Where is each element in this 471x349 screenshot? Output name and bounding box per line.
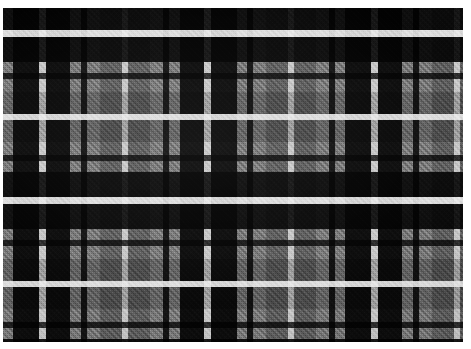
weft-stripe bbox=[3, 114, 463, 120]
weft-stripe bbox=[3, 8, 463, 30]
warp-stripe bbox=[39, 8, 46, 342]
warp-stripe bbox=[13, 8, 39, 342]
warp-stripe bbox=[419, 8, 432, 342]
warp-stripe bbox=[316, 8, 329, 342]
warp-stripe bbox=[345, 8, 371, 342]
warp-stripe bbox=[70, 8, 81, 342]
weft-stripe bbox=[3, 328, 463, 339]
weft-stripe bbox=[3, 240, 463, 246]
warp-stripe bbox=[163, 8, 169, 342]
weft-stripe bbox=[3, 62, 463, 73]
warp-stripe bbox=[335, 8, 345, 342]
warp-stripe bbox=[402, 8, 413, 342]
weft-stripe bbox=[3, 259, 463, 281]
weft-stripe bbox=[3, 197, 463, 204]
weft-stripe bbox=[3, 339, 463, 342]
weft-stripe bbox=[3, 73, 463, 79]
warp-stripe bbox=[294, 8, 316, 342]
thread-grain-texture bbox=[3, 8, 463, 342]
weft-stripe bbox=[3, 172, 463, 197]
warp-stripe bbox=[169, 8, 180, 342]
fabric-swatch bbox=[3, 8, 463, 342]
weft-stripe bbox=[3, 229, 463, 240]
weft-stripe bbox=[3, 142, 463, 155]
weft-stripe bbox=[3, 30, 463, 37]
warp-stripe bbox=[329, 8, 335, 342]
warp-stripe bbox=[288, 8, 294, 342]
warp-stripe bbox=[128, 8, 150, 342]
warp-stripe bbox=[150, 8, 163, 342]
warp-stripe bbox=[204, 8, 211, 342]
weft-stripe bbox=[3, 246, 463, 259]
warp-stripe bbox=[432, 8, 454, 342]
warp-stripe bbox=[454, 8, 460, 342]
warp-stripe bbox=[3, 8, 13, 342]
warp-stripe bbox=[266, 8, 288, 342]
warp-stripe bbox=[122, 8, 128, 342]
warp-stripe bbox=[81, 8, 87, 342]
warp-stripe bbox=[211, 8, 237, 342]
weft-stripe bbox=[3, 79, 463, 92]
warp-stripe bbox=[247, 8, 253, 342]
warp-stripe bbox=[180, 8, 204, 342]
warp-stripe bbox=[371, 8, 378, 342]
warp-stripe bbox=[378, 8, 402, 342]
warp-stripe bbox=[460, 8, 463, 342]
twill-weave-texture-alt bbox=[3, 8, 463, 342]
weft-stripe bbox=[3, 287, 463, 309]
image-canvas bbox=[0, 0, 471, 349]
cloth-shading-overlay bbox=[3, 8, 463, 342]
warp-stripe bbox=[253, 8, 266, 342]
weft-stripe bbox=[3, 92, 463, 114]
weft-stripe bbox=[3, 204, 463, 229]
weft-stripe bbox=[3, 161, 463, 172]
warp-stripe bbox=[87, 8, 100, 342]
weft-stripe bbox=[3, 37, 463, 62]
weft-stripe bbox=[3, 120, 463, 142]
warp-stripe bbox=[46, 8, 70, 342]
weft-stripe bbox=[3, 281, 463, 287]
warp-stripe bbox=[413, 8, 419, 342]
warp-stripe bbox=[100, 8, 122, 342]
weft-stripe bbox=[3, 322, 463, 328]
weft-stripe bbox=[3, 155, 463, 161]
weft-stripe bbox=[3, 309, 463, 322]
warp-stripe bbox=[237, 8, 247, 342]
twill-weave-texture bbox=[3, 8, 463, 342]
